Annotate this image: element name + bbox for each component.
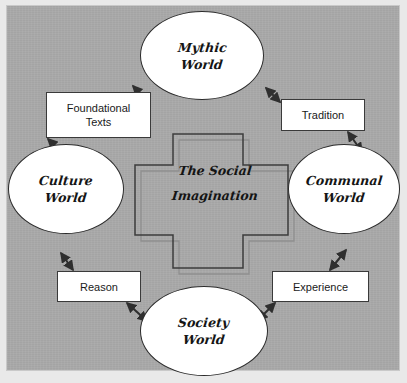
node-mythic-world-line1: Mythic — [177, 39, 228, 56]
center-cross-shadow — [141, 140, 294, 274]
edge-label-experience[interactable]: Experience — [272, 271, 369, 302]
node-mythic-world[interactable]: Mythic World — [140, 11, 264, 100]
center-cross-outline — [135, 134, 288, 268]
node-society-world-line2: World — [182, 331, 226, 348]
node-society-world[interactable]: Society World — [140, 286, 268, 376]
edge-label-reason-text: Reason — [80, 280, 118, 294]
node-society-world-line1: Society — [177, 314, 230, 331]
edge-label-foundational-texts-line1: Foundational — [67, 101, 131, 115]
node-culture-world-line1: Culture — [38, 172, 94, 189]
node-communal-world[interactable]: Communal World — [288, 144, 400, 234]
node-mythic-world-line2: World — [180, 56, 224, 73]
node-communal-world-line2: World — [322, 189, 366, 206]
edge-label-foundational-texts-line2: Texts — [86, 115, 112, 129]
node-culture-world[interactable]: Culture World — [8, 144, 124, 234]
edge-label-experience-text: Experience — [293, 280, 348, 294]
node-culture-world-line2: World — [44, 189, 88, 206]
node-communal-world-line1: Communal — [305, 172, 383, 189]
edge-label-reason[interactable]: Reason — [57, 271, 141, 302]
edge-label-foundational-texts[interactable]: Foundational Texts — [46, 92, 151, 138]
edge-label-tradition[interactable]: Tradition — [281, 99, 365, 131]
diagram-root: The Social Imagination Mythic World Cult… — [0, 0, 407, 383]
edge-label-tradition-text: Tradition — [302, 108, 344, 122]
